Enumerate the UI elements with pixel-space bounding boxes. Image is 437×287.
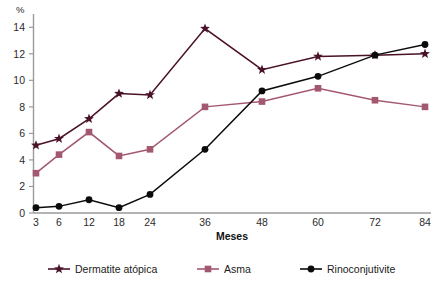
data-point-square (147, 146, 154, 153)
legend-label: Asma (224, 263, 251, 275)
legend-item-3[interactable]: Rinoconjutivite (300, 263, 395, 275)
data-point-circle (259, 88, 266, 95)
data-point-circle (147, 191, 154, 198)
data-point-square (205, 266, 212, 273)
data-point-circle (116, 204, 123, 211)
series-line (36, 45, 425, 208)
legend-label: Rinoconjutivite (327, 263, 395, 275)
y-tick-label: 2 (19, 180, 25, 192)
data-point-circle (308, 266, 315, 273)
x-tick-label: 3 (33, 216, 39, 228)
data-point-square (202, 104, 209, 111)
data-point-star (54, 264, 64, 273)
y-tick-label: 0 (19, 207, 25, 219)
x-tick-label: 36 (199, 216, 211, 228)
x-tick-label: 18 (113, 216, 125, 228)
series-line (36, 29, 425, 146)
x-tick-label: 60 (312, 216, 324, 228)
data-point-circle (86, 196, 93, 203)
legend-item-1[interactable]: Dermatite atópica (48, 263, 157, 275)
data-point-square (56, 151, 63, 158)
y-tick-label: 12 (13, 48, 25, 60)
chart-canvas: % 02468101214 361218243648607284 Meses D… (0, 0, 437, 287)
data-point-circle (372, 52, 379, 59)
x-tick-label: 12 (83, 216, 95, 228)
y-tick-label: 14 (13, 21, 25, 33)
x-tick-label: 72 (369, 216, 381, 228)
data-point-square (315, 85, 322, 92)
y-axis-unit-label: % (16, 4, 25, 15)
x-tick-label: 84 (419, 216, 431, 228)
x-axis-ticks: 361218243648607284 (33, 216, 431, 228)
data-point-star (420, 49, 430, 58)
x-tick-label: 48 (256, 216, 268, 228)
data-point-circle (315, 73, 322, 80)
y-tick-label: 6 (19, 127, 25, 139)
y-axis-unit: % (16, 4, 25, 15)
data-point-square (259, 98, 266, 105)
y-tick-label: 4 (19, 154, 25, 166)
data-point-circle (422, 41, 429, 48)
x-axis-title: Meses (216, 230, 248, 242)
line-chart: % 02468101214 361218243648607284 Meses D… (0, 0, 437, 287)
data-point-square (116, 153, 123, 160)
series-3 (33, 41, 429, 211)
legend-item-2[interactable]: Asma (197, 263, 251, 275)
y-axis-ticks: 02468101214 (13, 21, 33, 219)
data-point-square (86, 129, 93, 136)
data-point-circle (202, 146, 209, 153)
data-point-square (422, 104, 429, 111)
data-point-star (31, 140, 41, 149)
data-point-circle (56, 203, 63, 210)
data-point-star (54, 134, 64, 143)
data-point-square (372, 97, 379, 104)
series-line (36, 88, 425, 173)
y-tick-label: 8 (19, 101, 25, 113)
data-point-square (33, 170, 40, 177)
series-layer (31, 23, 430, 211)
x-tick-label: 6 (56, 216, 62, 228)
chart-legend: Dermatite atópicaAsmaRinoconjutivite (48, 263, 395, 275)
data-point-circle (33, 204, 40, 211)
data-point-star (313, 51, 323, 60)
y-tick-label: 10 (13, 74, 25, 86)
x-tick-label: 24 (144, 216, 156, 228)
data-point-star (257, 65, 267, 74)
series-2 (33, 85, 429, 177)
legend-label: Dermatite atópica (75, 263, 157, 275)
